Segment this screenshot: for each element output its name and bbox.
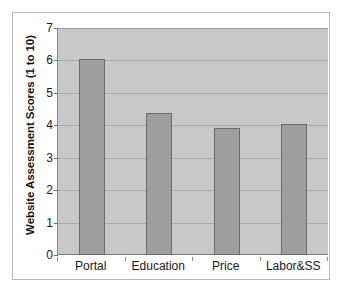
y-axis-tick-label: 6: [19, 54, 53, 66]
bar-labor-ss: [281, 124, 307, 255]
x-axis-label-education: Education: [132, 259, 185, 273]
chart-figure: Website Assessment Scores (1 to 10) 0123…: [12, 12, 330, 280]
y-axis-tick-mark: [54, 28, 58, 29]
y-axis-tick-mark: [54, 223, 58, 224]
bar-portal: [79, 59, 105, 255]
bar-education: [146, 113, 172, 255]
x-axis-label-price: Price: [212, 259, 239, 273]
y-axis-tick-label: 3: [19, 152, 53, 164]
y-axis-tick-label: 2: [19, 184, 53, 196]
plot-area: 01234567: [57, 28, 328, 255]
y-axis-tick-mark: [54, 60, 58, 61]
x-axis-tick-mark: [327, 257, 328, 261]
y-axis-tick-mark: [54, 255, 58, 256]
x-axis-label-labor-ss: Labor&SS: [266, 259, 321, 273]
y-axis-tick-mark: [54, 125, 58, 126]
x-axis-labels: PortalEducationPriceLabor&SS: [57, 257, 328, 279]
y-axis-tick-label: 7: [19, 22, 53, 34]
x-axis-tick-mark: [125, 257, 126, 261]
y-axis-tick-label: 1: [19, 217, 53, 229]
y-axis-tick-label: 4: [19, 119, 53, 131]
x-axis-tick-mark: [57, 257, 58, 261]
y-axis-tick-mark: [54, 158, 58, 159]
x-axis-tick-mark: [192, 257, 193, 261]
y-axis-tick-label: 0: [19, 249, 53, 261]
x-axis-label-portal: Portal: [75, 259, 106, 273]
bar-price: [214, 128, 240, 255]
x-axis-tick-mark: [260, 257, 261, 261]
gridline: [58, 28, 328, 29]
y-axis-tick-mark: [54, 190, 58, 191]
y-axis-tick-mark: [54, 93, 58, 94]
y-axis-tick-label: 5: [19, 87, 53, 99]
